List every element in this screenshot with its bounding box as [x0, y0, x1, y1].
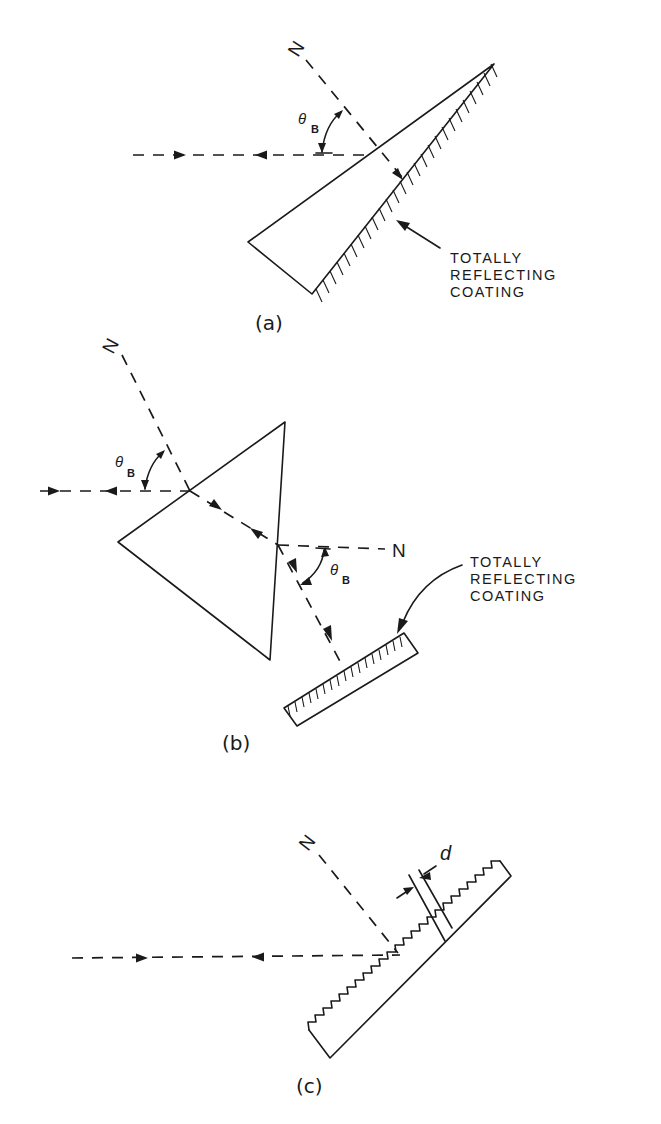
panel-c: N d (c): [72, 831, 511, 1098]
pointer-arrow-icon: [396, 220, 410, 231]
beam-line-c: [72, 955, 400, 958]
pointer-arrow-icon: [397, 618, 408, 634]
normal-label-b1: N: [98, 335, 123, 357]
arrow-up-left-icon: [250, 528, 263, 539]
panel-b: N θ B N θ B: [40, 335, 577, 755]
note-line-1-a: TOTALLY: [450, 250, 523, 266]
arrow-down-right-icon: [392, 168, 403, 180]
note-line-3-b: COATING: [470, 588, 545, 604]
normal-label-c: N: [295, 831, 320, 855]
arc-arrow-icon: [141, 480, 149, 490]
arrow-left-icon: [255, 151, 267, 160]
note-line-2-b: REFLECTING: [470, 571, 577, 587]
angle-tick: [316, 548, 330, 549]
pointer-line-a: [402, 224, 440, 248]
normal-line-b2: [278, 545, 385, 549]
pointer-curve-b: [403, 565, 462, 622]
optical-diagram: N θ B: [0, 0, 661, 1124]
arrow-right-icon: [48, 487, 60, 496]
note-line-3-a: COATING: [450, 284, 525, 300]
arc-arrow-icon: [318, 143, 326, 153]
panel-a: N θ B: [133, 37, 557, 335]
normal-label-b2: N: [392, 540, 406, 561]
note-line-2-a: REFLECTING: [450, 267, 557, 283]
theta-subscript-a: B: [311, 123, 319, 135]
theta-label-a: θ: [298, 110, 306, 127]
caption-a: (a): [255, 311, 283, 335]
reflecting-coating-hatch-b: [288, 637, 402, 716]
theta-subscript-b1: B: [127, 467, 135, 479]
arrow-down-right-icon: [209, 499, 222, 510]
mirror: [284, 633, 418, 726]
theta-label-b2: θ: [330, 561, 338, 578]
arrow-left-icon: [252, 953, 264, 962]
note-line-1-b: TOTALLY: [470, 554, 543, 570]
theta-subscript-b2: B: [342, 574, 350, 586]
angle-arc-b2: [303, 550, 324, 583]
normal-label-a: N: [284, 37, 309, 60]
caption-c: (c): [296, 1074, 323, 1098]
triangular-prism: [118, 422, 285, 660]
spacing-label-d: d: [440, 842, 452, 864]
theta-label-b1: θ: [115, 453, 123, 470]
caption-b: (b): [222, 731, 250, 755]
grating-sawtooth: [308, 861, 500, 1030]
internal-beam-b: [190, 491, 278, 545]
normal-line-c: [319, 855, 398, 953]
arrow-right-icon: [136, 954, 148, 963]
arrow-left-icon: [105, 487, 117, 496]
arrow-right-icon: [174, 151, 186, 160]
